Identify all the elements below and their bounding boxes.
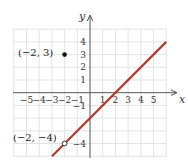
point-label-a: (−2, 3) [18,47,53,58]
x-tick: 5 [151,95,157,105]
x-tick: −3 [45,95,59,105]
x-tick: 4 [138,95,144,105]
x-tick: −4 [33,95,47,105]
y-tick: −4 [73,139,87,149]
x-tick: −2 [58,95,71,105]
x-tick: 3 [125,95,131,105]
point-label-b: (−2, −4) [13,132,57,143]
y-tick: 1 [80,75,86,85]
y-tick: 4 [80,37,86,47]
y-tick: 2 [80,62,86,72]
x-tick: 2 [113,95,119,105]
y-axis-label: y [78,10,86,23]
open-point [62,141,67,146]
y-tick: −1 [73,101,86,111]
y-tick: 3 [80,50,86,60]
x-tick: −5 [20,95,34,105]
filled-point [62,52,67,57]
x-tick-labels: −5 −4 −3 −2 −1 1 2 3 4 5 [20,95,157,105]
x-axis-label: x [179,93,186,106]
coordinate-plane: x y −5 −4 −3 −2 −1 1 2 3 4 5 4 3 2 1 −1 … [0,0,188,168]
